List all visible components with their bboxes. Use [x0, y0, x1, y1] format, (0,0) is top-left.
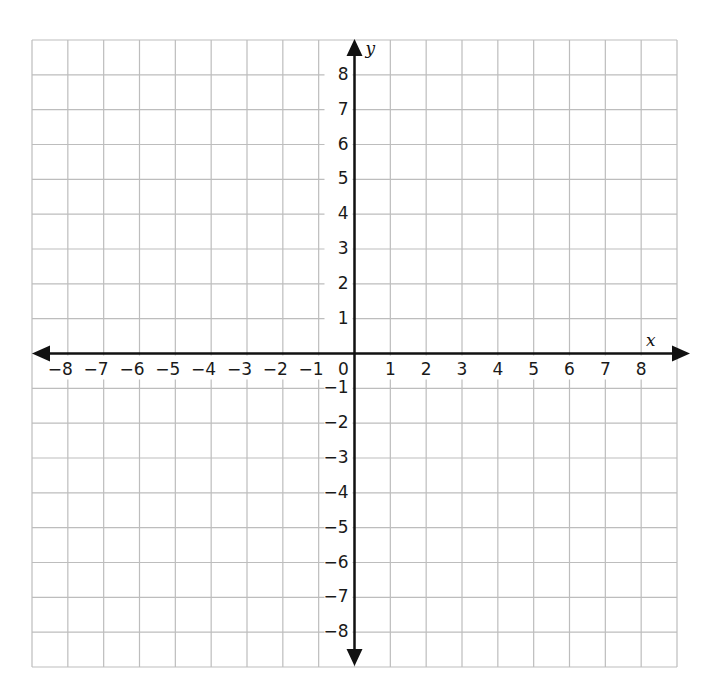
- y-tick-label: −3: [323, 447, 348, 467]
- x-axis-right-arrow-icon: [672, 346, 690, 362]
- x-tick-label: 6: [564, 359, 575, 379]
- y-tick-label: 1: [338, 308, 349, 328]
- y-tick-label: 3: [338, 238, 349, 258]
- x-tick-label: 1: [385, 359, 396, 379]
- x-tick-label: −8: [48, 359, 73, 379]
- y-tick-label: 5: [338, 168, 349, 188]
- y-tick-label: −7: [323, 586, 348, 606]
- x-tick-label: 2: [421, 359, 432, 379]
- x-tick-label: 3: [457, 359, 468, 379]
- y-tick-label: 4: [338, 203, 349, 223]
- coordinate-plane: −8−7−6−5−4−3−2−1012345678 −8−7−6−5−4−3−2…: [0, 0, 705, 680]
- x-tick-label: 8: [636, 359, 647, 379]
- x-tick-label: −1: [299, 359, 324, 379]
- axes: [32, 39, 690, 666]
- y-tick-label: −1: [323, 377, 348, 397]
- y-tick-label: 7: [338, 99, 349, 119]
- y-tick-label: 8: [338, 64, 349, 84]
- y-axis-label: y: [365, 38, 376, 58]
- x-tick-label: −2: [263, 359, 288, 379]
- y-tick-label: −8: [323, 621, 348, 641]
- y-tick-label: −2: [323, 412, 348, 432]
- x-axis-label: x: [646, 330, 656, 350]
- x-tick-label: −4: [191, 359, 216, 379]
- x-tick-label: −6: [119, 359, 144, 379]
- y-tick-label: −5: [323, 517, 348, 537]
- x-tick-label: −5: [155, 359, 180, 379]
- x-tick-label: 4: [492, 359, 503, 379]
- x-tick-label: −7: [84, 359, 109, 379]
- y-tick-label: 6: [338, 134, 349, 154]
- y-axis-down-arrow-icon: [347, 649, 363, 666]
- x-tick-label: 0: [338, 359, 349, 379]
- x-tick-label: 7: [600, 359, 611, 379]
- x-tick-label: −3: [227, 359, 252, 379]
- y-tick-label: −6: [323, 552, 348, 572]
- y-axis-up-arrow-icon: [347, 39, 363, 56]
- y-tick-label: −4: [323, 482, 348, 502]
- y-tick-label: 2: [338, 273, 349, 293]
- x-tick-label: 5: [528, 359, 539, 379]
